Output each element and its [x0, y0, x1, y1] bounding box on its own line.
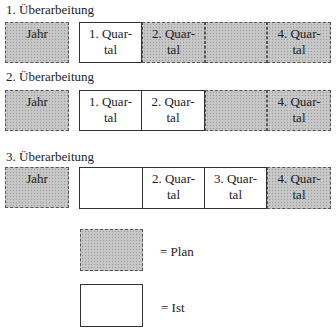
cell-label-line2: tal [277, 187, 320, 203]
cell-label-line1: 2. Quar- [152, 26, 195, 42]
row-1-q1-ist: 1. Quar-tal [79, 22, 142, 63]
cell-label-line1: 4. Quar- [277, 26, 320, 42]
cell-label-line2: tal [151, 110, 194, 126]
row-1-q2-plan: 2. Quar-tal [142, 22, 205, 63]
cell-label-line1: 4. Quar- [277, 94, 320, 110]
cell-label-line2: tal [89, 110, 132, 126]
legend-ist-label: = Ist [161, 300, 185, 316]
cell-label-line2: tal [89, 42, 132, 58]
row-3-q4-plan: 4. Quar-tal [267, 167, 331, 209]
row-2-q1-ist: 1. Quar-tal [79, 90, 142, 131]
cell-label-line2: tal [277, 42, 320, 58]
cell-label-line2: tal [277, 110, 320, 126]
cell-label-line1: 1. Quar- [89, 26, 132, 42]
row-2-q2-ist: 2. Quar-tal [141, 90, 205, 131]
row-1-q4-plan: 4. Quar-tal [267, 22, 331, 63]
legend-plan-swatch [80, 229, 143, 271]
row-1-heading: 1. Überarbeitung [6, 3, 94, 17]
cell-label-line2: tal [214, 187, 257, 203]
row-2-q4-plan: 4. Quar-tal [267, 90, 331, 131]
cell-label-line1: 4. Quar- [277, 171, 320, 187]
row-3-q2-ist: 2. Quar-tal [142, 167, 205, 209]
legend-plan-label: = Plan [160, 244, 194, 260]
row-3-heading: 3. Überarbeitung [6, 150, 94, 164]
row-3-year-plan: Jahr [5, 167, 69, 208]
cell-label-line1: 2. Quar- [152, 171, 195, 187]
row-1-q3-plan [205, 22, 267, 63]
cell-label-line1: 2. Quar- [151, 94, 194, 110]
row-2-heading: 2. Überarbeitung [6, 70, 94, 84]
year-label: Jahr [26, 171, 48, 187]
cell-label-line1: 3. Quar- [214, 171, 257, 187]
row-3-q3-ist: 3. Quar-tal [204, 167, 267, 209]
year-label: Jahr [26, 94, 48, 110]
row-2-year-plan: Jahr [5, 90, 69, 131]
row-3-q1-ist [79, 167, 143, 209]
cell-label-line2: tal [152, 42, 195, 58]
row-2-q3-plan [205, 90, 267, 131]
row-1-year-plan: Jahr [5, 22, 69, 63]
cell-label-line1: 1. Quar- [89, 94, 132, 110]
cell-label-line2: tal [152, 187, 195, 203]
legend-ist-swatch [80, 284, 143, 327]
year-label: Jahr [26, 26, 48, 42]
